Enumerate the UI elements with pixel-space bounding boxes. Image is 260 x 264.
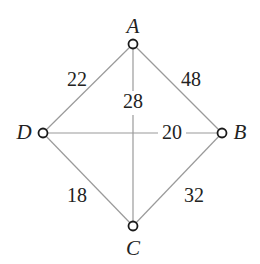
edge-label-a-b: 48 xyxy=(181,68,201,90)
node-label-d: D xyxy=(15,120,31,144)
edge-label-a-c: 28 xyxy=(123,90,143,112)
edge-label-d-c: 18 xyxy=(67,184,87,206)
edge-label-d-b: 20 xyxy=(162,121,182,143)
node-label-b: B xyxy=(234,120,247,144)
node-d xyxy=(39,129,48,138)
node-label-c: C xyxy=(126,236,141,260)
node-c xyxy=(129,222,138,231)
node-a xyxy=(129,40,138,49)
node-b xyxy=(218,129,227,138)
edge-c-b xyxy=(133,133,222,226)
edge-label-a-d: 22 xyxy=(67,68,87,90)
node-label-a: A xyxy=(125,14,140,38)
edge-a-d xyxy=(43,44,133,133)
edge-d-c xyxy=(43,133,133,226)
edge-label-c-b: 32 xyxy=(184,184,204,206)
graph-diagram: 22 48 28 20 18 32 A B C D xyxy=(0,0,260,264)
